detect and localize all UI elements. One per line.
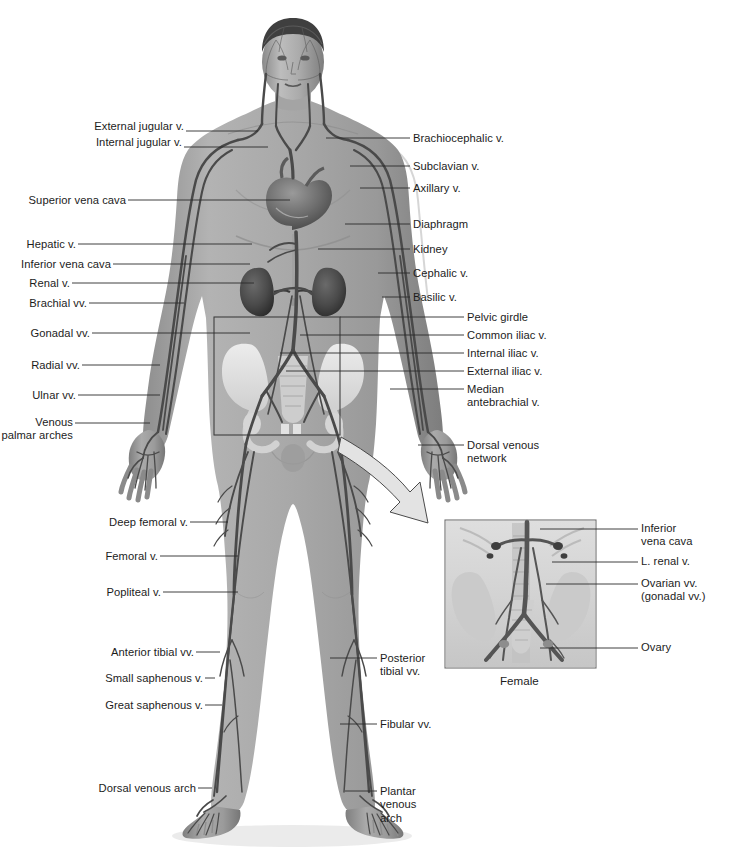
label-kidney: Kidney — [413, 243, 448, 256]
label-internal-jugular-v: Internal jugular v. — [0, 136, 182, 149]
label-external-jugular-v: External jugular v. — [0, 120, 184, 133]
label-inset-ovarian-vv: Ovarian vv. (gonadal vv.) — [641, 577, 706, 604]
label-popliteal-v: Popliteal v. — [0, 586, 161, 599]
label-posterior-tibial-vv: Posterior tibial vv. — [380, 652, 425, 679]
label-anterior-tibial-vv: Anterior tibial vv. — [0, 646, 194, 659]
label-gonadal-vv: Gonadal vv. — [0, 327, 90, 340]
label-inset-inferior-vena-cava: Inferior vena cava — [641, 522, 693, 549]
figure-stage: External jugular v. Internal jugular v. … — [0, 0, 731, 861]
label-internal-iliac-v: Internal iliac v. — [467, 347, 539, 360]
label-venous-palmar-arches: Venous palmar arches — [0, 416, 73, 443]
label-brachial-vv: Brachial vv. — [0, 297, 87, 310]
label-cephalic-v: Cephalic v. — [413, 267, 468, 280]
label-external-iliac-v: External iliac v. — [467, 365, 542, 378]
label-femoral-v: Femoral v. — [0, 550, 158, 563]
label-dorsal-venous-arch: Dorsal venous arch — [0, 782, 196, 795]
label-fibular-vv: Fibular vv. — [380, 718, 431, 731]
inset-illustration — [445, 520, 596, 668]
label-ulnar-vv: Ulnar vv. — [0, 389, 76, 402]
label-radial-vv: Radial vv. — [0, 359, 80, 372]
label-basilic-v: Basilic v. — [413, 291, 457, 304]
label-pelvic-girdle: Pelvic girdle — [467, 311, 528, 324]
label-renal-v: Renal v. — [0, 277, 70, 290]
label-diaphragm: Diaphragm — [413, 218, 468, 231]
label-deep-femoral-v: Deep femoral v. — [0, 516, 188, 529]
label-great-saphenous-v: Great saphenous v. — [0, 699, 203, 712]
label-plantar-venous-arch: Plantar venous arch — [380, 785, 416, 825]
label-subclavian-v: Subclavian v. — [413, 160, 479, 173]
label-axillary-v: Axillary v. — [413, 182, 461, 195]
label-small-saphenous-v: Small saphenous v. — [0, 672, 203, 685]
label-inset-ovary: Ovary — [641, 641, 671, 654]
label-inferior-vena-cava: Inferior vena cava — [0, 258, 111, 271]
label-median-antebrachial-v: Median antebrachial v. — [467, 383, 540, 410]
label-dorsal-venous-network: Dorsal venous network — [467, 439, 539, 466]
inset-caption: Female — [500, 674, 539, 687]
label-superior-vena-cava: Superior vena cava — [0, 194, 126, 207]
label-brachiocephalic-v: Brachiocephalic v. — [413, 132, 504, 145]
label-hepatic-v: Hepatic v. — [0, 238, 76, 251]
anatomy-figure-page: External jugular v. Internal jugular v. … — [0, 0, 731, 861]
label-common-iliac-v: Common iliac v. — [467, 329, 547, 342]
label-inset-l-renal-v: L. renal v. — [641, 555, 690, 568]
